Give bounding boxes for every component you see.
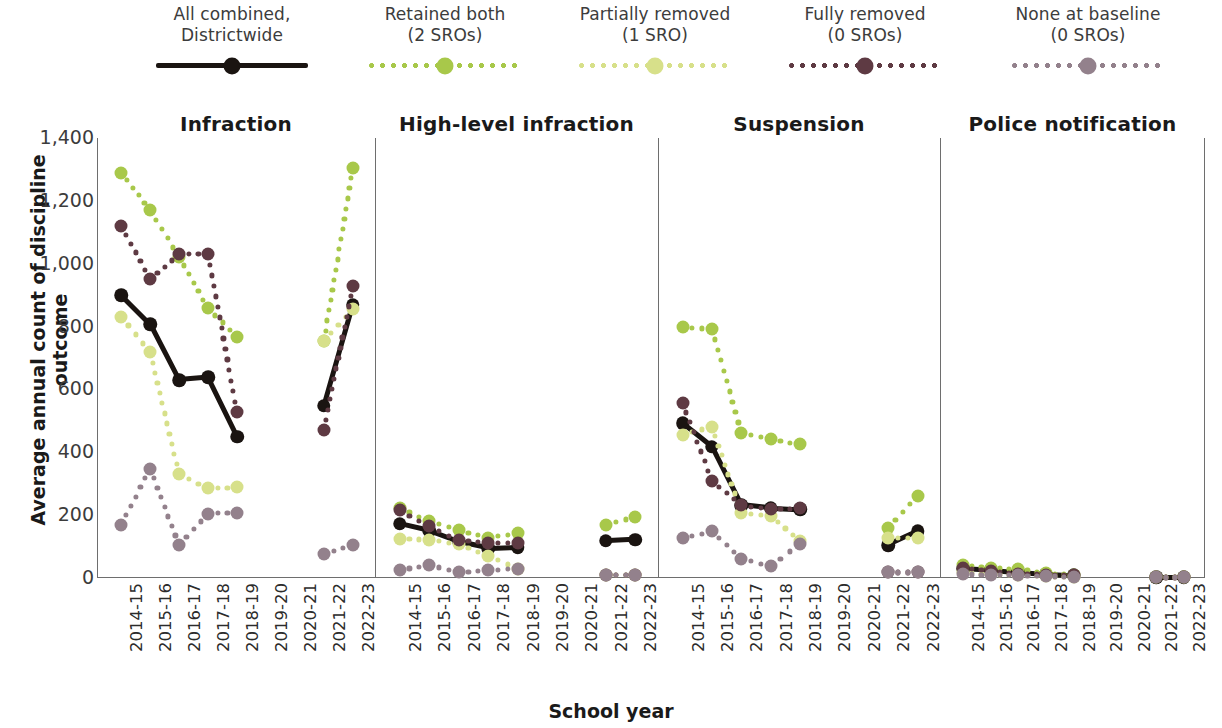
- dotted-line-dot: [140, 341, 145, 346]
- data-point[interactable]: [705, 525, 718, 538]
- data-point[interactable]: [231, 481, 244, 494]
- data-point[interactable]: [911, 489, 924, 502]
- data-point[interactable]: [629, 569, 642, 582]
- dotted-line-dot: [690, 533, 695, 538]
- legend-item-0[interactable]: All combined, Districtwide: [127, 4, 337, 75]
- data-point[interactable]: [735, 552, 748, 565]
- data-point[interactable]: [393, 532, 406, 545]
- data-point[interactable]: [1012, 569, 1025, 582]
- data-point[interactable]: [676, 531, 689, 544]
- dotted-line-dot: [215, 486, 220, 491]
- data-point[interactable]: [735, 499, 748, 512]
- data-point[interactable]: [346, 539, 359, 552]
- data-point[interactable]: [1067, 570, 1080, 583]
- data-point[interactable]: [482, 564, 495, 577]
- dotted-line-dot: [446, 524, 451, 529]
- data-point[interactable]: [794, 538, 807, 551]
- dotted-line-dot: [1053, 574, 1058, 579]
- data-point[interactable]: [423, 558, 436, 571]
- data-point[interactable]: [957, 568, 970, 581]
- data-point[interactable]: [764, 560, 777, 573]
- dotted-line-dot: [225, 510, 230, 515]
- data-point[interactable]: [882, 531, 895, 544]
- data-point[interactable]: [452, 534, 465, 547]
- x-tick-label: 2021-22: [612, 583, 631, 652]
- data-point[interactable]: [629, 510, 642, 523]
- data-point[interactable]: [984, 568, 997, 581]
- data-point[interactable]: [1039, 570, 1052, 583]
- data-point[interactable]: [599, 518, 612, 531]
- data-point[interactable]: [599, 534, 613, 548]
- data-point[interactable]: [143, 317, 157, 331]
- data-point[interactable]: [482, 536, 495, 549]
- dotted-line-dot: [495, 558, 500, 563]
- dotted-line-dot: [167, 431, 172, 436]
- data-point[interactable]: [452, 566, 465, 579]
- data-point[interactable]: [393, 517, 407, 531]
- data-point[interactable]: [173, 248, 186, 261]
- data-point[interactable]: [346, 161, 359, 174]
- data-point[interactable]: [705, 420, 718, 433]
- data-point[interactable]: [317, 548, 330, 561]
- data-point[interactable]: [599, 568, 612, 581]
- data-point[interactable]: [202, 302, 215, 315]
- dotted-line-dot: [231, 388, 236, 393]
- dotted-line-dot: [323, 417, 328, 422]
- data-point[interactable]: [115, 166, 128, 179]
- data-point[interactable]: [764, 503, 777, 516]
- data-point[interactable]: [393, 564, 406, 577]
- data-point[interactable]: [511, 562, 524, 575]
- x-tick-label: 2019-20: [1107, 583, 1126, 652]
- data-point[interactable]: [231, 330, 244, 343]
- data-point[interactable]: [482, 550, 495, 563]
- data-point[interactable]: [705, 323, 718, 336]
- data-point[interactable]: [882, 566, 895, 579]
- data-point[interactable]: [629, 533, 643, 547]
- data-point[interactable]: [1150, 571, 1163, 584]
- data-point[interactable]: [317, 424, 330, 437]
- data-point[interactable]: [794, 438, 807, 451]
- x-tick-label: 2016-17: [747, 583, 766, 652]
- dotted-line-dot: [466, 530, 471, 535]
- data-point[interactable]: [202, 482, 215, 495]
- data-point[interactable]: [115, 310, 128, 323]
- data-point[interactable]: [423, 520, 436, 533]
- data-point[interactable]: [173, 539, 186, 552]
- legend-item-3[interactable]: Fully removed (0 SROs): [760, 4, 970, 75]
- dotted-line-dot: [159, 226, 164, 231]
- legend-item-2[interactable]: Partially removed (1 SRO): [550, 4, 760, 75]
- data-point[interactable]: [676, 396, 689, 409]
- data-point[interactable]: [202, 248, 215, 261]
- data-point[interactable]: [231, 506, 244, 519]
- data-point[interactable]: [144, 204, 157, 217]
- legend-item-1[interactable]: Retained both (2 SROs): [340, 4, 550, 75]
- data-point[interactable]: [201, 371, 215, 385]
- data-point[interactable]: [911, 531, 924, 544]
- data-point[interactable]: [115, 220, 128, 233]
- data-point[interactable]: [114, 288, 128, 302]
- data-point[interactable]: [144, 346, 157, 359]
- data-point[interactable]: [144, 272, 157, 285]
- data-point[interactable]: [676, 321, 689, 334]
- data-point[interactable]: [705, 474, 718, 487]
- data-point[interactable]: [230, 430, 244, 444]
- data-point[interactable]: [115, 518, 128, 531]
- data-point[interactable]: [202, 507, 215, 520]
- legend-item-4[interactable]: None at baseline (0 SROs): [983, 4, 1193, 75]
- data-point[interactable]: [393, 504, 406, 517]
- data-point[interactable]: [764, 433, 777, 446]
- data-point[interactable]: [911, 566, 924, 579]
- data-point[interactable]: [144, 462, 157, 475]
- data-point[interactable]: [172, 373, 186, 387]
- data-point[interactable]: [423, 533, 436, 546]
- data-point[interactable]: [231, 406, 244, 419]
- data-point[interactable]: [676, 429, 689, 442]
- data-point[interactable]: [346, 279, 359, 292]
- data-point[interactable]: [511, 536, 524, 549]
- data-point[interactable]: [735, 426, 748, 439]
- dotted-line-dot: [733, 409, 738, 414]
- data-point[interactable]: [173, 468, 186, 481]
- data-point[interactable]: [794, 502, 807, 515]
- data-point[interactable]: [317, 334, 330, 347]
- data-point[interactable]: [1177, 571, 1190, 584]
